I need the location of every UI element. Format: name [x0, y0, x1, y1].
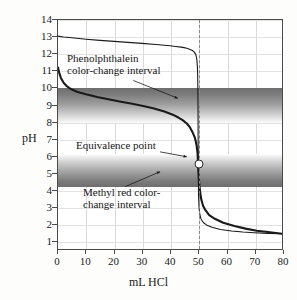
x-axis-title: mL HCl: [0, 275, 297, 290]
x-tick-label: 0: [54, 256, 60, 267]
annotation-phenolphthalein-line2: color-change interval: [67, 64, 161, 76]
annotation-phenolphthalein: Phenolphthalein color-change interval: [67, 52, 161, 77]
x-tick-mark: [227, 250, 228, 254]
leader-equivalence-point-arrowhead: [183, 155, 186, 158]
x-tick-label: 40: [165, 256, 176, 267]
x-tick-mark: [142, 250, 143, 254]
x-tick-label: 50: [193, 256, 204, 267]
titration-curve-figure: pH 1234567891011121314 Phenolphthalein c…: [0, 0, 297, 300]
annotation-phenolphthalein-line1: Phenolphthalein: [67, 52, 139, 64]
x-tick-mark: [198, 250, 199, 254]
y-tick-label: 12: [41, 48, 52, 59]
y-tick-label: 10: [41, 82, 52, 93]
annotation-methyl-red: Methyl red color- change interval: [83, 186, 160, 211]
x-tick-mark: [114, 250, 115, 254]
leader-equivalence-point: [160, 152, 187, 157]
leader-methyl-red: [125, 172, 160, 187]
x-tick-mark: [57, 250, 58, 254]
x-tick-label: 80: [278, 256, 289, 267]
y-axis-title: pH: [22, 131, 37, 146]
x-tick-mark: [170, 250, 171, 254]
y-tick-label: 13: [41, 31, 52, 42]
x-tick-mark: [85, 250, 86, 254]
y-tick-label: 11: [41, 65, 52, 76]
x-tick-mark: [283, 250, 284, 254]
y-tick-label: 14: [41, 14, 52, 25]
x-tick-label: 20: [108, 256, 119, 267]
annotation-equivalence-point: Equivalence point: [76, 139, 156, 151]
leader-phenolphthalein: [133, 80, 178, 98]
annotation-equivalence-point-label: Equivalence point: [76, 139, 156, 151]
x-tick-label: 70: [249, 256, 260, 267]
x-tick-label: 10: [80, 256, 91, 267]
x-tick-mark: [255, 250, 256, 254]
x-tick-label: 30: [136, 256, 147, 267]
annotation-methyl-red-line1: Methyl red color-: [83, 186, 160, 198]
x-tick-label: 60: [221, 256, 232, 267]
annotation-methyl-red-line2: change interval: [83, 198, 160, 210]
